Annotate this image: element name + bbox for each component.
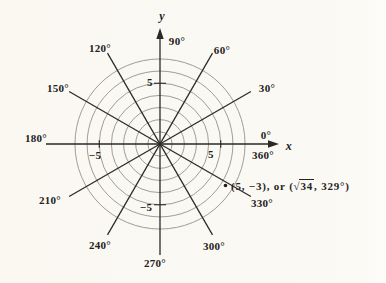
angle-label-300: 300° — [203, 240, 225, 252]
angle-label-360: 360° — [252, 149, 274, 161]
y-axis-label: y — [159, 9, 165, 24]
x-axis-arrow-icon — [268, 140, 279, 147]
y-tick-label-neg5: −5 — [140, 201, 152, 213]
angle-label-30: 30° — [259, 82, 275, 94]
angle-label-240: 240° — [89, 239, 111, 251]
x-axis-label: x — [286, 139, 292, 154]
angle-label-120: 120° — [89, 42, 111, 54]
angle-label-90: 90° — [169, 35, 185, 47]
angle-label-330: 330° — [251, 197, 273, 209]
point-label-prefix: (5, −3), or (√ — [231, 180, 300, 192]
point-label-suffix: , 329°) — [314, 180, 350, 192]
angle-label-180: 180° — [25, 132, 47, 144]
angle-label-60: 60° — [214, 44, 230, 56]
angle-label-0: 0° — [261, 129, 272, 141]
y-tick-label-5: 5 — [147, 76, 153, 88]
plotted-point-dot — [224, 184, 228, 188]
angle-label-210: 210° — [39, 194, 61, 206]
x-tick-label-5: 5 — [208, 148, 214, 160]
y-axis-arrow-icon — [156, 28, 163, 39]
polar-coordinates-figure: y x 90° 60° 30° 0° 360° 120° 150° 180° 2… — [0, 0, 386, 283]
point-label-radicand: 34 — [299, 179, 314, 192]
angle-label-150: 150° — [47, 82, 69, 94]
point-coordinates-label: (5, −3), or (√34, 329°) — [231, 180, 350, 192]
polar-plot-canvas — [0, 0, 386, 283]
angle-label-270: 270° — [144, 257, 166, 269]
x-tick-label-neg5: −5 — [89, 149, 101, 161]
